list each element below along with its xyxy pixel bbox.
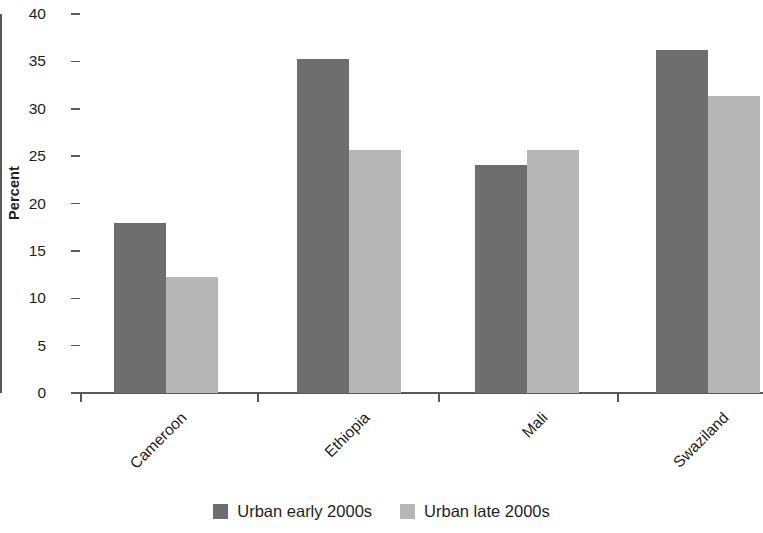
y-axis-tick-label: 25 bbox=[6, 148, 46, 164]
y-axis-tick bbox=[71, 108, 80, 110]
bars-layer bbox=[80, 14, 763, 393]
y-axis-tick bbox=[71, 298, 80, 300]
chart-legend: Urban early 2000sUrban late 2000s bbox=[0, 503, 763, 520]
bar bbox=[349, 150, 401, 394]
bar bbox=[475, 165, 527, 393]
y-axis-tick bbox=[71, 250, 80, 252]
y-axis-tick bbox=[71, 345, 80, 347]
y-axis-line bbox=[0, 14, 2, 393]
y-axis-tick bbox=[71, 13, 80, 15]
bar bbox=[527, 150, 579, 393]
bar bbox=[297, 59, 349, 393]
legend-item: Urban early 2000s bbox=[213, 503, 372, 520]
y-axis-tick-label: 20 bbox=[6, 196, 46, 212]
x-axis-tick bbox=[80, 393, 82, 402]
y-axis-tick bbox=[71, 203, 80, 205]
legend-swatch-icon bbox=[213, 504, 228, 519]
y-axis-tick-label: 30 bbox=[6, 101, 46, 117]
y-axis-tick-label: 40 bbox=[6, 6, 46, 22]
y-axis-title: Percent bbox=[6, 153, 22, 233]
legend-label: Urban early 2000s bbox=[237, 503, 372, 520]
bar bbox=[656, 50, 708, 393]
bar-chart: Percent 4035302520151050 CameroonEthiopi… bbox=[0, 0, 763, 533]
y-axis-tick-label: 15 bbox=[6, 243, 46, 259]
y-axis-tick-label: 0 bbox=[6, 385, 46, 401]
x-axis-tick bbox=[438, 393, 440, 402]
legend-item: Urban late 2000s bbox=[400, 503, 550, 520]
legend-swatch-icon bbox=[400, 504, 415, 519]
x-axis-tick bbox=[617, 393, 619, 402]
bar bbox=[708, 96, 760, 393]
y-axis-tick bbox=[71, 392, 80, 394]
y-axis-tick-label: 10 bbox=[6, 290, 46, 306]
bar bbox=[114, 223, 166, 393]
y-axis-tick bbox=[71, 155, 80, 157]
x-axis-tick bbox=[257, 393, 259, 402]
y-axis-tick bbox=[71, 61, 80, 63]
legend-label: Urban late 2000s bbox=[424, 503, 550, 520]
y-axis-tick-label: 5 bbox=[6, 338, 46, 354]
bar bbox=[166, 277, 218, 393]
y-axis-tick-label: 35 bbox=[6, 53, 46, 69]
